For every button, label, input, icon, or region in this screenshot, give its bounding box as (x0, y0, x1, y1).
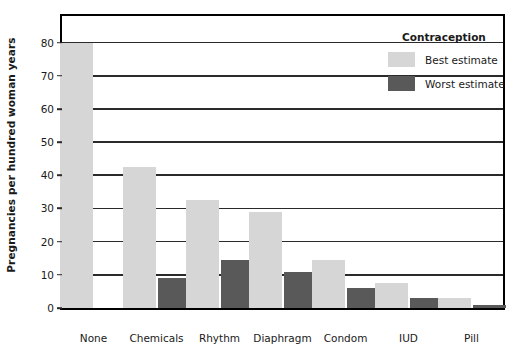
legend-swatch-icon (388, 76, 415, 91)
legend: Contraception Best estimateWorst estimat… (388, 31, 513, 100)
legend-entries: Best estimateWorst estimate (388, 52, 513, 91)
y-tick-mark (57, 75, 62, 77)
x-tick-label: Pill (464, 332, 479, 344)
bar (312, 260, 345, 308)
y-tick-mark (57, 274, 62, 276)
x-tick-label: Condom (324, 332, 368, 344)
y-tick-mark (57, 108, 62, 110)
bar (375, 283, 408, 308)
y-tick-mark (57, 141, 62, 143)
legend-title: Contraception (402, 31, 513, 43)
x-tick-label: None (80, 332, 107, 344)
y-tick-mark (57, 174, 62, 176)
legend-item[interactable]: Best estimate (388, 52, 513, 67)
y-tick-mark (57, 42, 62, 44)
x-tick-label: Rhythm (199, 332, 240, 344)
bar (186, 200, 219, 308)
bar (60, 43, 93, 308)
gridline (62, 141, 503, 143)
y-tick-label: 80 (14, 37, 54, 49)
y-tick-label: 40 (14, 169, 54, 181)
x-tick-label: Chemicals (129, 332, 183, 344)
bar (438, 298, 471, 308)
y-tick-label: 10 (14, 269, 54, 281)
y-tick-label: 70 (14, 70, 54, 82)
y-tick-mark (57, 307, 62, 309)
legend-swatch-icon (388, 52, 415, 67)
y-tick-label: 60 (14, 103, 54, 115)
y-tick-label: 50 (14, 136, 54, 148)
bar (123, 167, 156, 308)
y-tick-label: 0 (14, 302, 54, 314)
y-tick-mark (57, 208, 62, 210)
x-tick-label: IUD (399, 332, 418, 344)
legend-item-label: Best estimate (425, 54, 498, 66)
bar (473, 305, 506, 308)
bar (249, 212, 282, 308)
legend-item[interactable]: Worst estimate (388, 76, 513, 91)
y-tick-mark (57, 241, 62, 243)
legend-item-label: Worst estimate (425, 78, 505, 90)
y-tick-label: 20 (14, 236, 54, 248)
x-tick-label: Diaphragm (253, 332, 311, 344)
y-tick-label: 30 (14, 202, 54, 214)
gridline (62, 108, 503, 110)
